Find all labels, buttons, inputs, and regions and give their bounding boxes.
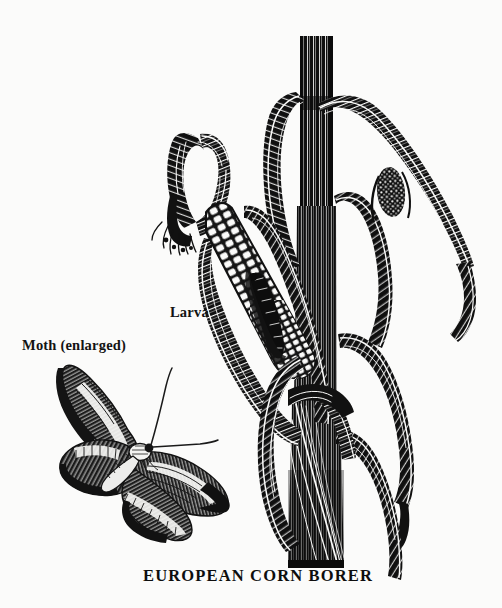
plate-caption: EUROPEAN CORN BORER [0, 566, 502, 586]
engraving-artwork [0, 0, 502, 608]
illustration-plate: Moth (enlarged) Larva EUROPEAN CORN BORE… [0, 0, 502, 608]
label-larva: Larva [170, 304, 209, 321]
label-moth: Moth (enlarged) [22, 337, 126, 354]
